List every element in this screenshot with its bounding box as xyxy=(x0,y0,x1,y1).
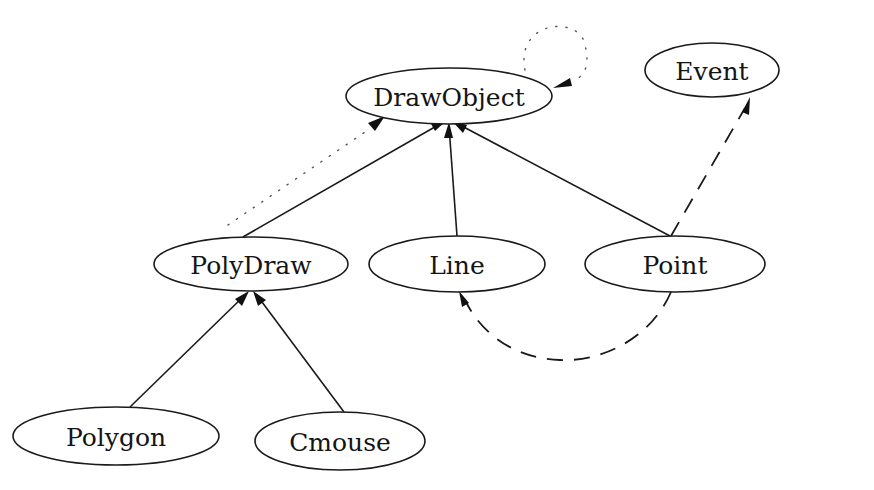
edge-point-line xyxy=(466,292,671,360)
node-event[interactable]: Event xyxy=(645,43,779,97)
edge-polygon-polydraw xyxy=(130,294,246,407)
arrowhead-icon xyxy=(553,78,572,88)
node-label: DrawObject xyxy=(373,83,524,112)
node-line[interactable]: Line xyxy=(369,236,545,292)
node-polygon[interactable]: Polygon xyxy=(13,407,219,465)
node-label: Cmouse xyxy=(289,428,391,457)
node-point[interactable]: Point xyxy=(585,236,765,292)
class-diagram: DrawObject Event PolyDraw Line Point Pol… xyxy=(0,0,874,490)
edge-cmouse-polydraw xyxy=(256,294,344,412)
node-label: PolyDraw xyxy=(190,251,312,280)
node-label: Point xyxy=(642,251,707,280)
node-polydraw[interactable]: PolyDraw xyxy=(154,237,348,291)
edge-point-event xyxy=(671,108,745,236)
edge-line-drawobject xyxy=(449,126,457,236)
node-cmouse[interactable]: Cmouse xyxy=(255,412,425,470)
edge-point-drawobject xyxy=(458,124,670,236)
node-drawobject[interactable]: DrawObject xyxy=(346,68,552,124)
node-label: Polygon xyxy=(66,423,166,452)
arrowhead-icon xyxy=(368,116,385,131)
node-label: Line xyxy=(429,251,485,280)
edge-drawobject-selfloop xyxy=(524,26,587,80)
edge-polydraw-drawobject xyxy=(243,124,440,237)
arrowhead-icon xyxy=(742,97,750,115)
node-label: Event xyxy=(675,57,748,86)
